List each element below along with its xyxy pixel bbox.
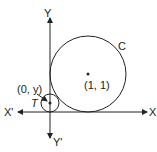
y-neg-axis-label: Y'	[53, 136, 62, 148]
small-circle-label: T	[31, 97, 39, 109]
x-neg-axis-label: X'	[4, 106, 13, 118]
x-axis-label: X	[149, 106, 157, 118]
y-axis-label: Y	[44, 7, 52, 19]
small-circle-center-dot	[49, 102, 52, 105]
small-circle-center-label: (0, y)	[17, 83, 42, 95]
large-circle-label: C	[118, 40, 126, 52]
diagram-canvas: Y Y' X X' C (1, 1) T (0, y)	[0, 0, 157, 152]
large-circle-center-dot	[87, 73, 90, 76]
large-circle-center-label: (1, 1)	[84, 79, 110, 91]
